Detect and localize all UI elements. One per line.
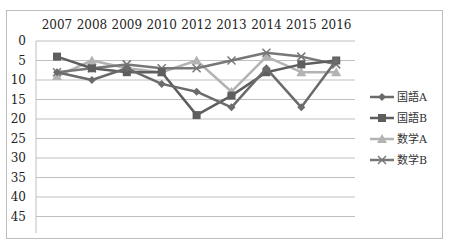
x-tick-label: 2016 — [321, 18, 352, 32]
y-tick-label: 30 — [11, 151, 26, 165]
square-marker-icon — [53, 53, 61, 61]
square-marker-icon — [228, 92, 236, 100]
y-tick-label: 5 — [18, 54, 26, 68]
y-tick-label: 40 — [11, 190, 26, 204]
y-tick-label: 10 — [11, 73, 26, 87]
diamond-marker-icon — [193, 88, 201, 96]
diamond-marker-icon — [378, 93, 386, 101]
legend-item: 数学A — [370, 132, 428, 146]
square-marker-icon — [297, 60, 305, 68]
x-axis-ticks: 200720082009201020122013201420152016 — [42, 18, 352, 32]
legend-item: 国語B — [370, 111, 427, 125]
x-tick-label: 2015 — [286, 18, 317, 32]
x-tick-label: 2008 — [77, 18, 108, 32]
y-tick-label: 15 — [11, 93, 26, 107]
square-marker-icon — [378, 114, 386, 122]
legend-label: 国語A — [397, 90, 428, 104]
square-marker-icon — [158, 68, 166, 76]
legend-item: 国語A — [370, 90, 428, 104]
legend-label: 数学A — [397, 132, 428, 146]
legend-item: 数学B — [370, 153, 427, 167]
square-marker-icon — [88, 64, 96, 72]
diamond-marker-icon — [158, 80, 166, 88]
x-tick-label: 2010 — [146, 18, 177, 32]
y-tick-label: 20 — [11, 112, 26, 126]
y-axis-ticks: 051015202530354045 — [11, 34, 26, 224]
series-line — [57, 57, 336, 116]
x-tick-label: 2009 — [112, 18, 143, 32]
line-chart: 051015202530354045 200720082009201020122… — [0, 0, 450, 251]
square-marker-icon — [193, 111, 201, 119]
diamond-marker-icon — [88, 76, 96, 84]
legend-label: 数学B — [397, 153, 427, 167]
y-tick-label: 0 — [18, 34, 26, 48]
legend-label: 国語B — [397, 111, 427, 125]
x-tick-label: 2013 — [216, 18, 247, 32]
series-lines — [52, 49, 341, 119]
x-tick-label: 2012 — [181, 18, 212, 32]
x-tick-label: 2007 — [42, 18, 73, 32]
x-tick-label: 2014 — [251, 18, 282, 32]
y-tick-label: 25 — [11, 132, 26, 146]
y-tick-label: 35 — [11, 171, 26, 185]
y-tick-label: 45 — [11, 210, 26, 224]
legend: 国語A国語B数学A数学B — [370, 90, 428, 167]
